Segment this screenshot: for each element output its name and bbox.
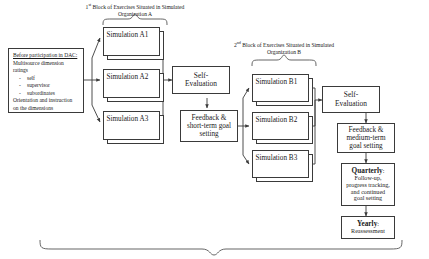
brace-overall-process bbox=[40, 240, 402, 255]
simulation-a3-box: Simulation A3 bbox=[103, 111, 160, 140]
header-block-b-line1: Block of Exercises Situated in Simulated bbox=[241, 42, 334, 48]
quarterly-line2: progress tracking, bbox=[346, 182, 390, 189]
feedback-short-term-line3: setting bbox=[199, 130, 218, 138]
quarterly-heading: Quarterly bbox=[352, 166, 383, 175]
pre-participation-box: Before participation in DAC: Multisource… bbox=[8, 48, 84, 113]
simulation-b1-label: Simulation B1 bbox=[251, 78, 311, 86]
header-block-b-line2: Organization B bbox=[224, 49, 344, 57]
header-block-b: 2nd Block of Exercises Situated in Simul… bbox=[224, 40, 344, 57]
simulation-b3-label: Simulation B3 bbox=[251, 154, 311, 162]
feedback-short-term-box: Feedback & short-term goal setting bbox=[180, 110, 238, 142]
yearly-heading-row: Yearly: bbox=[357, 220, 379, 228]
simulation-a1-label: Simulation A1 bbox=[102, 31, 162, 39]
self-evaluation-b-line2: Evaluation bbox=[335, 100, 367, 108]
self-evaluation-b-box: Self- Evaluation bbox=[322, 86, 380, 113]
pre-box-line1: Multisource dimension bbox=[13, 60, 80, 68]
yearly-line1: Reassessment bbox=[351, 228, 385, 235]
feedback-medium-term-box: Feedback & medium-term goal setting bbox=[337, 123, 395, 153]
quarterly-heading-row: Quarterly: bbox=[352, 167, 385, 175]
yearly-box: Yearly: Reassessment bbox=[341, 216, 395, 239]
header-block-a: 1st Block of Exercises Situated in Simul… bbox=[75, 2, 195, 19]
feedback-short-term-line2: short-term goal bbox=[187, 122, 231, 130]
pre-box-rater-list: self supervisor subordinates bbox=[13, 75, 80, 98]
arrows-pre-to-block-a bbox=[84, 38, 100, 122]
simulation-b2-label: Simulation B2 bbox=[251, 116, 311, 124]
diagram-canvas: Before participation in DAC: Multisource… bbox=[0, 0, 429, 259]
simulation-b1-box: Simulation B1 bbox=[252, 74, 309, 102]
pre-box-line4: on the dimensions bbox=[13, 105, 80, 113]
self-evaluation-a-box: Self- Evaluation bbox=[172, 66, 230, 94]
simulation-a1-box: Simulation A1 bbox=[103, 27, 160, 56]
header-block-a-line1: Block of Exercises Situated in Simulated bbox=[91, 4, 184, 10]
self-evaluation-a-line2: Evaluation bbox=[185, 80, 217, 88]
yearly-heading: Yearly bbox=[357, 219, 377, 228]
feedback-short-term-line1: Feedback & bbox=[192, 114, 227, 122]
header-block-a-line2: Organization A bbox=[75, 11, 195, 19]
simulation-b3-box: Simulation B3 bbox=[252, 150, 309, 178]
rater-self: self bbox=[13, 75, 80, 83]
pre-box-title: Before participation in DAC: bbox=[13, 52, 80, 60]
feedback-medium-term-line2: medium-term bbox=[346, 134, 385, 142]
simulation-a3-label: Simulation A3 bbox=[102, 115, 162, 123]
pre-box-line2: ratings bbox=[13, 67, 80, 75]
rater-subordinates: subordinates bbox=[13, 90, 80, 98]
quarterly-line4: goal setting bbox=[354, 195, 382, 202]
feedback-medium-term-line3: goal setting bbox=[349, 142, 382, 150]
quarterly-box: Quarterly: Follow-up, progress tracking,… bbox=[341, 163, 395, 206]
yearly-colon: : bbox=[377, 221, 379, 227]
feedback-medium-term-line1: Feedback & bbox=[349, 126, 384, 134]
quarterly-line1: Follow-up, bbox=[355, 175, 382, 182]
pre-box-line3: Orientation and instruction bbox=[13, 97, 80, 105]
simulation-a2-label: Simulation A2 bbox=[102, 73, 162, 81]
simulation-a2-box: Simulation A2 bbox=[103, 69, 160, 98]
rater-supervisor: supervisor bbox=[13, 82, 80, 90]
quarterly-colon: : bbox=[383, 168, 385, 174]
quarterly-line3: and continued bbox=[351, 189, 385, 196]
simulation-b2-box: Simulation B2 bbox=[252, 112, 309, 140]
